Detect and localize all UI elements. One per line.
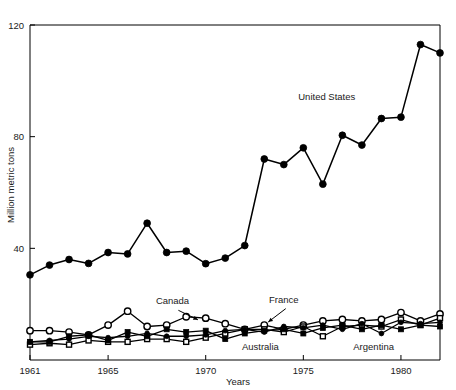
data-point-marker [398,114,405,121]
data-point-marker [359,142,366,149]
data-point-marker [222,255,229,262]
data-point-marker [184,334,189,339]
data-point-marker [222,321,228,327]
data-point-marker [85,260,92,267]
data-point-marker [105,322,111,328]
data-point-marker [164,327,169,332]
data-point-marker [46,262,53,269]
data-point-marker [66,256,73,263]
x-axis-ticks: 19611965197019751980 [19,355,411,376]
data-point-marker [144,220,151,227]
x-tick-label: 1980 [390,365,411,376]
data-point-marker [378,316,384,322]
data-point-marker [398,327,403,332]
data-point-marker [300,144,307,151]
x-tick-label: 1975 [293,365,314,376]
data-point-marker [340,327,345,332]
data-point-marker [379,323,384,328]
data-point-marker [124,308,130,314]
plot-frame [30,25,440,360]
data-point-marker [145,331,150,336]
data-point-marker [242,327,247,332]
data-point-marker [105,249,112,256]
data-point-marker [202,260,209,267]
y-axis-title: Million metric tons [5,147,16,223]
data-point-marker [124,251,131,258]
data-point-marker [360,321,365,326]
series-line [30,45,440,275]
data-point-marker [320,334,325,339]
data-point-marker [280,161,287,168]
y-tick-label: 120 [8,20,24,31]
data-point-marker [183,248,190,255]
data-point-marker [86,334,91,339]
data-point-marker [241,242,248,249]
data-point-marker [418,321,423,326]
series-label-argentina: Argentina [353,341,394,352]
data-point-marker [27,327,33,333]
series-label-france: France [269,294,299,305]
x-tick-label: 1961 [19,365,40,376]
data-point-marker [27,271,34,278]
data-point-marker [301,325,306,330]
data-point-marker [379,331,384,336]
data-point-marker [262,330,267,335]
data-point-marker [46,327,52,333]
y-tick-label: 80 [13,131,24,142]
data-point-marker [301,331,306,336]
data-point-marker [67,337,72,342]
series-lines-group [30,45,440,345]
data-point-marker [261,156,268,163]
data-point-marker [184,339,189,344]
data-point-marker [281,324,286,329]
x-axis-title: Years [226,376,250,387]
data-point-marker [437,50,444,57]
series-label-australia: Australia [242,341,280,352]
series-markers-group [27,41,444,347]
data-point-marker [144,323,150,329]
data-point-marker [319,181,326,188]
series-label-united-states: United States [298,91,355,102]
y-tick-label: 40 [13,243,24,254]
data-point-marker [417,41,424,48]
x-tick-label: 1965 [98,365,119,376]
data-point-marker [339,132,346,139]
data-point-marker [359,327,364,332]
data-point-marker [47,338,52,343]
x-tick-label: 1970 [195,365,216,376]
data-point-marker [28,339,33,344]
series-label-canada: Canada [156,295,190,306]
data-point-marker [398,309,404,315]
series-labels-group: United StatesCanadaFranceAustraliaArgent… [156,91,395,352]
data-point-marker [163,249,170,256]
data-point-marker [438,320,443,325]
line-chart: 4080120 19611965197019751980 United Stat… [0,0,456,390]
data-point-marker [339,316,345,322]
data-point-marker [378,115,385,122]
data-point-marker [164,334,169,339]
data-point-marker [223,328,228,333]
data-point-marker [203,315,209,321]
chart-container: 4080120 19611965197019751980 United Stat… [0,0,456,390]
data-point-marker [125,339,130,344]
data-point-marker [223,337,228,342]
data-point-marker [320,323,325,328]
data-point-marker [203,332,208,337]
data-point-marker [399,320,404,325]
data-point-marker [67,342,72,347]
data-point-marker [106,335,111,340]
data-point-marker [125,334,130,339]
